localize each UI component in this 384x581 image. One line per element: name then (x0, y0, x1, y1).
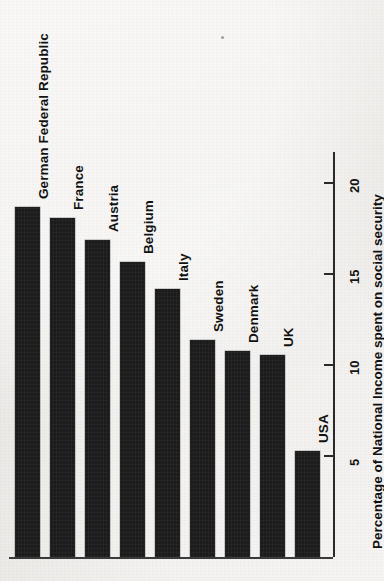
baseline-axis (9, 557, 333, 559)
axis-tick (324, 455, 333, 457)
bar (190, 340, 215, 557)
bar-label: Belgium (142, 200, 156, 254)
bar-chart-figure: German Federal RepublicFranceAustriaBelg… (0, 0, 384, 581)
bar (155, 289, 180, 557)
bar (50, 218, 75, 557)
bar-label: France (72, 166, 86, 211)
bar-label: Italy (177, 254, 191, 282)
axis-tick-label: 5 (348, 459, 361, 466)
bar-label: Denmark (247, 285, 261, 343)
axis-title: Percentage of National Income spent on s… (371, 194, 384, 549)
axis-tick-label: 10 (348, 361, 361, 375)
axis-tick (324, 273, 333, 275)
bar-label: German Federal Republic (37, 34, 51, 200)
bar-label: Austria (107, 185, 121, 232)
bar (120, 262, 145, 557)
axis-tick-label: 15 (348, 270, 361, 284)
bar-label: USA (317, 415, 331, 444)
bar (260, 355, 285, 557)
bar-label: UK (282, 327, 296, 347)
axis-tick (324, 182, 333, 184)
bar-label: Sweden (212, 281, 226, 333)
bar (225, 351, 250, 557)
plot-area: German Federal RepublicFranceAustriaBelg… (0, 0, 384, 581)
bar (15, 207, 40, 557)
axis-tick (324, 364, 333, 366)
axis-tick-label: 20 (348, 179, 361, 193)
value-axis-line (333, 152, 335, 557)
bar (85, 240, 110, 557)
bar (295, 451, 320, 557)
